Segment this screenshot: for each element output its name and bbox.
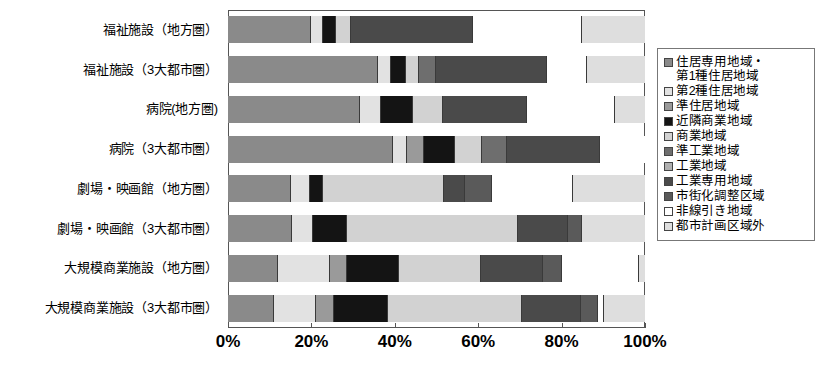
bar-segment — [455, 136, 481, 163]
bar-segment — [465, 175, 492, 202]
bar-segment — [407, 136, 424, 163]
bar-segment — [482, 136, 507, 163]
legend-label: 非線引き地域 — [676, 204, 752, 218]
bar-segment — [323, 175, 444, 202]
legend-swatch-icon — [664, 222, 673, 231]
legend-swatch-icon — [664, 147, 673, 156]
bar-segment — [274, 295, 316, 322]
x-axis-tick-label: 40% — [378, 332, 412, 352]
bar-segment — [419, 56, 436, 83]
legend-item[interactable]: 市街化調整区域 — [664, 189, 809, 203]
legend-item[interactable]: 都市計画区域外 — [664, 219, 809, 233]
legend-item[interactable]: 非線引き地域 — [664, 204, 809, 218]
bar-segment — [311, 16, 324, 43]
legend-label: 工業地域 — [676, 159, 727, 173]
legend-label-line1: 準住居地域 — [676, 99, 740, 113]
legend-item[interactable]: 準住居地域 — [664, 99, 809, 113]
legend-label: 住居専用地域・第1種住居地域 — [676, 55, 765, 83]
legend-item[interactable]: 近隣商業地域 — [664, 114, 809, 128]
bar-segment — [600, 136, 645, 163]
legend-label: 工業専用地域 — [676, 174, 752, 188]
bar-segment — [568, 215, 582, 242]
legend-swatch-icon — [664, 192, 673, 201]
bar-segment — [399, 255, 480, 282]
bar-segment — [443, 96, 527, 123]
x-axis-tick-label: 100% — [623, 332, 666, 352]
bar-segment — [228, 175, 291, 202]
legend-label-line1: 都市計画区域外 — [676, 219, 765, 233]
bar-segment — [391, 56, 406, 83]
legend-label-line1: 住居専用地域・ — [676, 55, 765, 69]
bar-segment — [573, 175, 645, 202]
bar-segment — [582, 215, 645, 242]
bar-segment — [347, 255, 399, 282]
legend-item[interactable]: 工業地域 — [664, 159, 809, 173]
legend-label: 準工業地域 — [676, 144, 740, 158]
y-axis-label: 福祉施設（地方圏） — [103, 23, 218, 36]
bar-segment — [436, 56, 547, 83]
x-axis-labels: 0%20%40%60%80%100% — [0, 332, 820, 362]
legend-item[interactable]: 商業地域 — [664, 129, 809, 143]
bar-segment — [543, 255, 562, 282]
y-axis-label: 劇場・映画館（3大都市圏） — [57, 222, 218, 235]
legend-label-line1: 工業専用地域 — [676, 174, 752, 188]
y-axis-category-labels: 福祉施設（地方圏）福祉施設（3大都市圏）病院(地方圏)病院（3大都市圏）劇場・映… — [0, 10, 222, 328]
bar-segment — [406, 56, 419, 83]
legend-label: 市街化調整区域 — [676, 189, 765, 203]
bar-segment — [292, 215, 313, 242]
legend-label-line1: 非線引き地域 — [676, 204, 752, 218]
bar-segment — [527, 96, 615, 123]
bar-segment — [473, 16, 582, 43]
legend-label-line1: 第2種住居地域 — [676, 84, 759, 98]
bar-segment — [522, 295, 582, 322]
legend-swatch-icon — [664, 117, 673, 126]
legend-swatch-icon — [664, 87, 673, 96]
bar-segment — [507, 136, 600, 163]
bar-segment — [228, 96, 360, 123]
bar-segment — [330, 255, 347, 282]
legend-swatch-icon — [664, 102, 673, 111]
bar-segment — [444, 175, 465, 202]
bar-segment — [228, 295, 274, 322]
bar-row — [228, 255, 645, 282]
legend-item[interactable]: 工業専用地域 — [664, 174, 809, 188]
legend-label-line1: 市街化調整区域 — [676, 189, 765, 203]
legend-item[interactable]: 準工業地域 — [664, 144, 809, 158]
bar-segment — [381, 96, 413, 123]
x-axis-tick-label: 20% — [294, 332, 328, 352]
bar-segment — [228, 215, 292, 242]
bar-segment — [413, 96, 442, 123]
y-axis-label: 大規模商業施設（地方圏） — [64, 261, 218, 274]
bar-row — [228, 16, 645, 43]
bar-segment — [347, 215, 518, 242]
y-axis-label: 福祉施設（3大都市圏） — [83, 63, 218, 76]
legend-label: 準住居地域 — [676, 99, 740, 113]
legend-swatch-icon — [664, 58, 673, 67]
legend-swatch-icon — [664, 132, 673, 141]
bar-row — [228, 215, 645, 242]
bar-segment — [388, 295, 521, 322]
bar-segment — [562, 255, 639, 282]
x-axis-tick-label: 0% — [216, 332, 241, 352]
y-axis-label: 病院（3大都市圏） — [109, 142, 218, 155]
bar-segment — [604, 295, 645, 322]
legend-label-line1: 工業地域 — [676, 159, 727, 173]
bar-segment — [313, 215, 347, 242]
bar-segment — [639, 255, 645, 282]
bar-row — [228, 175, 645, 202]
bar-segment — [492, 175, 573, 202]
bar-row — [228, 136, 645, 163]
legend-swatch-icon — [664, 177, 673, 186]
bar-segment — [615, 96, 644, 123]
legend-item[interactable]: 第2種住居地域 — [664, 84, 809, 98]
legend-item[interactable]: 住居専用地域・第1種住居地域 — [664, 55, 809, 83]
bar-segment — [323, 16, 336, 43]
plot-area — [228, 10, 645, 328]
legend-label: 都市計画区域外 — [676, 219, 765, 233]
bar-segment — [581, 295, 598, 322]
legend-label-line1: 近隣商業地域 — [676, 114, 752, 128]
bar-segment — [351, 16, 474, 43]
y-axis-label: 大規模商業施設（3大都市圏） — [45, 301, 218, 314]
bar-segment — [587, 56, 645, 83]
legend-swatch-icon — [664, 207, 673, 216]
